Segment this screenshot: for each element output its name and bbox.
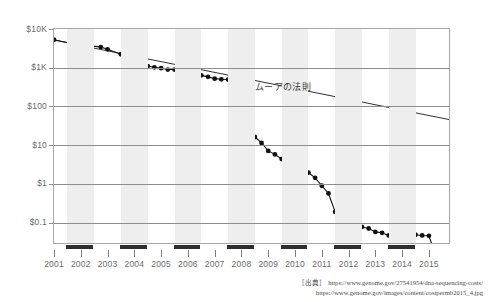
- data-point: [373, 230, 378, 235]
- y-axis-tick-label: $10: [2, 140, 47, 150]
- y-axis-tick-label: $1K: [2, 62, 47, 72]
- x-axis-tick-mark: [108, 250, 109, 257]
- x-axis-tick-mark: [81, 250, 82, 257]
- data-point: [219, 77, 224, 82]
- gridline: [54, 68, 449, 69]
- source-caption: ［出典］ https://www.genome.gov/27541954/dna…: [298, 278, 483, 297]
- background-band: [389, 29, 416, 243]
- moores-law-annotation: ムーアの法則: [255, 80, 311, 93]
- data-point: [212, 76, 217, 81]
- data-point: [273, 152, 278, 157]
- plot-area: [53, 28, 450, 244]
- x-axis-band-segment: [174, 245, 201, 249]
- x-axis-band: [53, 244, 450, 250]
- data-point: [206, 74, 211, 79]
- data-point: [420, 233, 425, 238]
- caption-line-1: ［出典］ https://www.genome.gov/27541954/dna…: [298, 278, 483, 288]
- y-axis-tick-label: $0.1: [2, 217, 47, 227]
- gridline: [54, 145, 449, 146]
- y-axis-tick-label: $1: [2, 178, 47, 188]
- x-axis-band-segment: [120, 245, 147, 249]
- chart-figure: $10K$1K$100$10$1$0.1 2001200220032004200…: [0, 0, 489, 302]
- caption-line-2: https://www.genome.gov/images/content/co…: [298, 288, 483, 298]
- x-axis-tick-mark: [134, 250, 135, 257]
- x-axis-tick-mark: [188, 250, 189, 257]
- x-axis-tick-mark: [241, 250, 242, 257]
- data-point: [326, 191, 331, 196]
- data-point: [98, 45, 103, 50]
- background-band: [228, 29, 255, 243]
- x-axis-tick-label: 2015: [412, 259, 446, 269]
- data-point: [427, 233, 432, 238]
- caption-url-1: https://www.genome.gov/27541954/dna-sequ…: [328, 279, 483, 286]
- data-point: [380, 230, 385, 235]
- x-axis-tick-mark: [54, 250, 55, 257]
- x-axis-tick-mark: [161, 250, 162, 257]
- gridline: [54, 223, 449, 224]
- x-axis-tick-mark: [375, 250, 376, 257]
- x-axis-band-segment: [281, 245, 308, 249]
- y-axis-tick-label: $100: [2, 101, 47, 111]
- x-axis-tick-mark: [349, 250, 350, 257]
- caption-prefix: ［出典］: [298, 279, 326, 286]
- background-band: [335, 29, 362, 243]
- x-axis-tick-mark: [268, 250, 269, 257]
- data-point: [54, 37, 56, 42]
- background-band: [175, 29, 202, 243]
- data-point: [266, 148, 271, 153]
- x-axis-tick-mark: [402, 250, 403, 257]
- background-band: [121, 29, 148, 243]
- x-axis-band-segment: [334, 245, 361, 249]
- gridline: [54, 106, 449, 107]
- gridline: [54, 184, 449, 185]
- data-point: [313, 175, 318, 180]
- y-axis-tick-label: $10K: [2, 24, 47, 34]
- background-band: [282, 29, 309, 243]
- data-point: [366, 226, 371, 231]
- x-axis-band-segment: [227, 245, 254, 249]
- x-axis-tick-mark: [322, 250, 323, 257]
- background-band: [67, 29, 94, 243]
- x-axis-tick-mark: [295, 250, 296, 257]
- x-axis-band-segment: [66, 245, 93, 249]
- x-axis-band-segment: [388, 245, 415, 249]
- x-axis-tick-mark: [215, 250, 216, 257]
- x-axis-tick-mark: [429, 250, 430, 257]
- data-point: [105, 47, 110, 52]
